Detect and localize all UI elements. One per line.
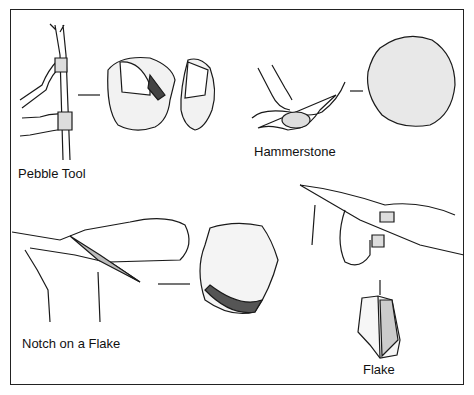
label-notch-on-flake: Notch on a Flake — [22, 336, 120, 351]
label-pebble-tool: Pebble Tool — [18, 166, 86, 181]
label-flake: Flake — [363, 362, 395, 377]
pebble-tool-drawing — [108, 58, 215, 131]
flake-drawing — [358, 296, 400, 358]
label-hammerstone: Hammerstone — [254, 144, 336, 159]
flake-striking-drawing — [300, 185, 464, 265]
notch-hands-drawing — [12, 219, 189, 322]
hammerstone-drawing — [368, 36, 455, 126]
stick-with-hands-drawing — [20, 24, 72, 160]
notched-flake-drawing — [200, 223, 278, 313]
hammerstone-hands-drawing — [252, 65, 345, 130]
